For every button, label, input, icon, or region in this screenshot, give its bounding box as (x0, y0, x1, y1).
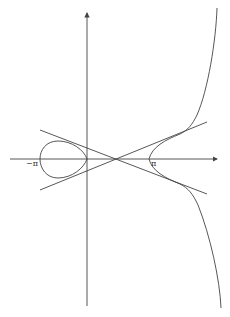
asymptote-line-1 (40, 130, 207, 194)
curve-diagram: −π π (0, 0, 230, 317)
closed-oval (40, 141, 87, 178)
label-pi: π (151, 159, 156, 168)
open-branch (149, 8, 221, 308)
label-neg-pi: −π (26, 159, 38, 168)
asymptote-line-2 (40, 122, 207, 190)
